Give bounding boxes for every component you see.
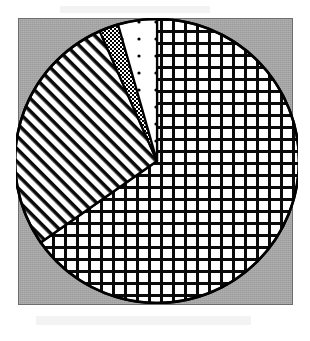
pie-chart-svg — [16, 18, 298, 304]
page-smudge-bottom — [36, 316, 251, 325]
pie-chart — [16, 18, 298, 304]
pie-chart-figure — [0, 0, 310, 341]
chart-title — [0, 0, 1, 1]
page-smudge-top — [60, 6, 210, 13]
